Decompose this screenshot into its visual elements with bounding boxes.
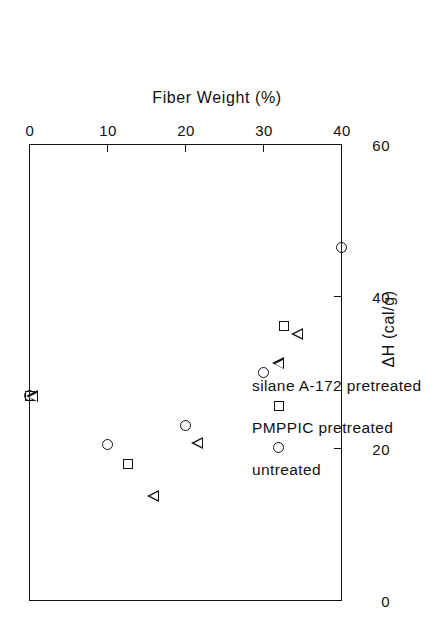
- data-point-untreated-40: [337, 242, 348, 253]
- x-tick-30: [263, 144, 264, 152]
- x-axis-title: Fiber Weight (%): [0, 89, 434, 107]
- data-point-pmppic-30: [279, 321, 289, 331]
- legend-label-pmppic: PMPPIC pretreated: [252, 419, 393, 437]
- legend-label-silane: silane A-172 pretreated: [252, 377, 421, 395]
- data-point-silane-30: [291, 328, 303, 340]
- x-tick-label-0: 0: [10, 122, 50, 139]
- x-tick-10: [107, 144, 108, 152]
- x-tick-label-10: 10: [88, 122, 128, 139]
- x-tick-0: [29, 144, 30, 152]
- triangle-fill: [294, 330, 302, 338]
- x-tick-label-20: 20: [166, 122, 206, 139]
- y-tick-label-0: 0: [350, 593, 390, 610]
- scatter-chart-figure: 0 10 20 30 40 0 20 40 60 Fiber Weight (%…: [0, 0, 434, 631]
- x-tick-40: [341, 144, 342, 152]
- data-point-silane-0: [26, 390, 38, 402]
- y-tick-20: [334, 448, 342, 449]
- y-tick-60: [334, 144, 342, 145]
- y-tick-0: [334, 600, 342, 601]
- plot-frame: [29, 144, 342, 601]
- triangle-fill: [275, 360, 283, 368]
- triangle-fill: [150, 492, 158, 500]
- data-point-pmppic-10: [123, 459, 133, 469]
- y-axis-line: [29, 144, 30, 601]
- legend-label-untreated: untreated: [252, 461, 321, 479]
- circle-marker-icon: [273, 442, 284, 453]
- triangle-fill: [194, 440, 202, 448]
- x-tick-20: [185, 144, 186, 152]
- y-tick-label-60: 60: [350, 137, 390, 154]
- data-point-silane-10: [147, 490, 159, 502]
- square-marker-icon: [274, 401, 284, 411]
- triangle-marker-icon: [272, 357, 284, 369]
- triangle-fill: [29, 393, 37, 401]
- data-point-silane-20: [191, 437, 203, 449]
- y-tick-40: [334, 296, 342, 297]
- x-tick-label-30: 30: [244, 122, 284, 139]
- figure-rotation-wrapper: 0 10 20 30 40 0 20 40 60 Fiber Weight (%…: [0, 0, 434, 631]
